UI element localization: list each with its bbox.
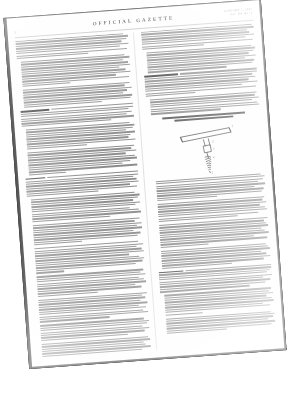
header-issue-info: JANUARY 7, 1913 Vol. 186 No. 1	[224, 8, 253, 18]
screenshot-root: 2 OFFICIAL GAZETTE JANUARY 7, 1913 Vol. …	[0, 0, 299, 407]
page-content: 2 OFFICIAL GAZETTE JANUARY 7, 1913 Vol. …	[3, 0, 286, 369]
right-column: 1 2 3 4 5	[141, 24, 277, 349]
svg-text:3: 3	[212, 146, 214, 150]
svg-text:1: 1	[231, 123, 233, 127]
svg-text:5: 5	[211, 170, 213, 174]
patent-figure: 1 2 3 4 5	[148, 118, 264, 178]
column-container: 1 2 3 4 5	[15, 24, 277, 359]
scanned-page: 2 OFFICIAL GAZETTE JANUARY 7, 1913 Vol. …	[3, 0, 286, 369]
svg-text:2: 2	[211, 139, 213, 143]
left-column	[15, 33, 151, 358]
corkscrew-figure-icon: 1 2 3 4 5	[167, 119, 245, 176]
svg-text:4: 4	[212, 155, 214, 159]
